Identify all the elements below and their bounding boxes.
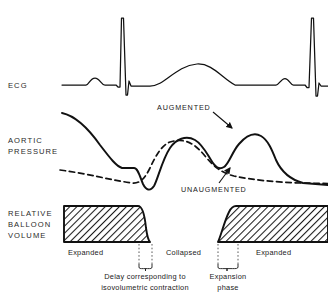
state-label-collapsed: Collapsed <box>166 248 201 257</box>
row-label-balloon-volume-line1: RELATIVE <box>8 209 53 220</box>
ecg-trace <box>62 18 328 96</box>
augmented-arrow <box>213 112 232 128</box>
annotation-unaugmented: UNAUGMENTED <box>181 185 247 194</box>
balloon-block-expanded-right <box>218 206 328 242</box>
row-label-aortic-pressure-line1: AORTIC <box>8 136 43 147</box>
row-label-balloon-volume-line3: VOLUME <box>8 231 46 242</box>
row-label-ecg: ECG <box>8 81 28 92</box>
brace-expansion <box>218 264 238 271</box>
row-label-aortic-pressure-line2: PRESSURE <box>8 147 58 158</box>
state-label-expanded-left: Expanded <box>68 248 103 257</box>
aortic-pressure-traces <box>60 113 328 190</box>
state-label-expanded-right: Expanded <box>256 248 291 257</box>
balloon-block-expanded-left <box>64 206 150 242</box>
unaugmented-arrow <box>219 168 230 183</box>
annotation-augmented: AUGMENTED <box>157 103 211 112</box>
caption-expansion-line2: phase <box>199 283 257 292</box>
caption-expansion-line1: Expansion <box>199 272 257 281</box>
row-label-balloon-volume-line2: BALLOON <box>8 220 51 231</box>
unaugmented-curve <box>60 140 328 183</box>
figure-canvas: ECG AORTIC PRESSURE RELATIVE BALLOON VOL… <box>0 0 328 296</box>
brace-delay <box>139 264 152 271</box>
balloon-volume-blocks <box>64 206 328 242</box>
